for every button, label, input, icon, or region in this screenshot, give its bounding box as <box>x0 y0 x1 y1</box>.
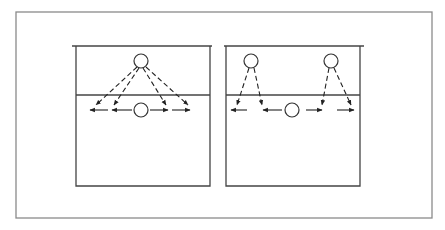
player-front-right <box>324 54 338 68</box>
court-panel-right <box>224 46 364 186</box>
player-front-left <box>244 54 258 68</box>
player-back <box>285 103 299 117</box>
court-panels <box>72 46 364 186</box>
movement-path-icon <box>143 68 166 105</box>
movement-path-icon <box>322 68 329 105</box>
movement-path-icon <box>334 68 351 105</box>
movement-path-icon <box>146 67 188 105</box>
court-panel-left <box>72 46 212 186</box>
diagram-canvas <box>0 0 445 230</box>
movement-path-icon <box>254 68 262 105</box>
player-back <box>134 103 148 117</box>
movement-path-icon <box>96 67 137 105</box>
outer-frame <box>16 12 432 218</box>
movement-path-icon <box>114 68 139 105</box>
player-front <box>134 54 148 68</box>
movement-path-icon <box>237 68 249 105</box>
